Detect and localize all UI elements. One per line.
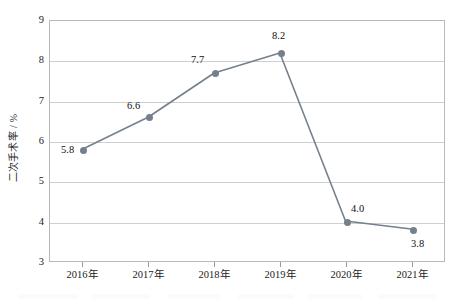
x-axis-tick-mark xyxy=(214,262,215,267)
x-axis-tick-label: 2021年 xyxy=(377,268,447,282)
data-point-label: 5.8 xyxy=(61,144,74,156)
page-edge-fragment xyxy=(238,294,294,299)
data-point-label: 7.7 xyxy=(191,54,204,66)
data-point-label: 4.0 xyxy=(351,203,364,215)
x-axis-tick-mark xyxy=(280,262,281,267)
page-edge-fragment xyxy=(378,294,436,299)
plot-area: 5.86.67.78.24.03.8 xyxy=(49,20,445,262)
x-axis-tick-label: 2019年 xyxy=(245,268,315,282)
page-edge-text-strip xyxy=(0,287,455,299)
y-axis-tick-label: 9 xyxy=(4,15,44,25)
page-edge-fragment xyxy=(168,294,220,299)
x-axis-tick-label: 2017年 xyxy=(113,268,183,282)
page-edge-fragment xyxy=(92,294,150,299)
x-axis-tick-mark xyxy=(346,262,347,267)
x-axis-tick-mark xyxy=(148,262,149,267)
x-axis-tick-mark xyxy=(82,262,83,267)
y-axis-tick-label: 4 xyxy=(4,217,44,227)
y-axis-tick-label: 5 xyxy=(4,176,44,186)
x-axis-tick-labels: 2016年2017年2018年2019年2020年2021年 xyxy=(49,268,445,284)
data-point-label: 8.2 xyxy=(272,30,285,42)
y-axis-tick-label: 3 xyxy=(4,257,44,267)
x-axis-tick-label: 2018年 xyxy=(179,268,249,282)
y-axis-tick-labels: 3456789 xyxy=(0,20,44,262)
y-axis-tick-label: 7 xyxy=(4,96,44,106)
x-axis-tick-label: 2020年 xyxy=(311,268,381,282)
chart-figure: 二次手术率 / % 3456789 5.86.67.78.24.03.8 201… xyxy=(0,0,455,299)
data-point-label: 6.6 xyxy=(127,100,140,112)
y-axis-tick-label: 8 xyxy=(4,55,44,65)
page-edge-fragment xyxy=(18,294,78,299)
x-axis-tick-mark xyxy=(412,262,413,267)
y-axis-tick-label: 6 xyxy=(4,136,44,146)
data-point-labels: 5.86.67.78.24.03.8 xyxy=(50,21,444,261)
x-axis-tick-label: 2016年 xyxy=(47,268,117,282)
x-axis-tick-marks xyxy=(49,262,445,267)
data-point-label: 3.8 xyxy=(411,238,424,250)
page-edge-fragment xyxy=(308,294,362,299)
